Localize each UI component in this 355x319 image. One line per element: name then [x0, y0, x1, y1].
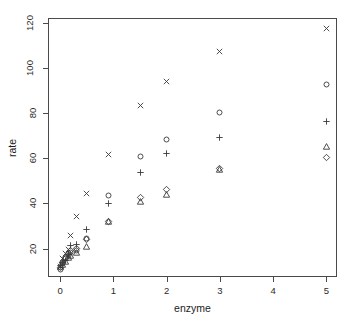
y-tick-label: 40 — [28, 198, 38, 209]
data-point-cross — [73, 213, 80, 220]
data-point-circle — [323, 81, 330, 88]
data-point-plus — [216, 134, 223, 141]
data-point-plus — [323, 118, 330, 125]
x-tick-mark — [60, 277, 61, 282]
x-tick-mark — [113, 277, 114, 282]
x-tick-mark — [273, 277, 274, 282]
y-tick-mark — [43, 203, 48, 204]
x-tick-label: 2 — [164, 286, 169, 296]
data-point-diamond — [163, 186, 170, 193]
data-point-plus — [163, 150, 170, 157]
data-point-circle — [163, 136, 170, 143]
data-point-circle — [137, 153, 144, 160]
x-tick-label: 5 — [324, 286, 329, 296]
data-point-diamond — [323, 154, 330, 161]
data-point-diamond — [216, 165, 223, 172]
y-axis-title: rate — [7, 138, 18, 156]
y-tick-mark — [43, 249, 48, 250]
data-point-triangle — [323, 143, 330, 150]
x-tick-label: 0 — [58, 286, 63, 296]
y-tick-label: 60 — [28, 153, 38, 164]
data-point-cross — [137, 102, 144, 109]
data-point-plus — [137, 169, 144, 176]
y-tick-mark — [43, 68, 48, 69]
data-point-cross — [83, 190, 90, 197]
data-point-circle — [105, 192, 112, 199]
y-tick-label: 80 — [28, 108, 38, 119]
data-point-diamond — [83, 236, 90, 243]
x-axis-title: enzyme — [174, 303, 211, 314]
data-point-plus — [83, 226, 90, 233]
y-tick-label: 20 — [28, 243, 38, 254]
x-tick-label: 1 — [111, 286, 116, 296]
data-point-plus — [105, 200, 112, 207]
data-point-diamond — [73, 245, 80, 252]
plot-panel — [48, 18, 337, 277]
data-point-cross — [323, 25, 330, 32]
data-point-circle — [216, 109, 223, 116]
data-point-triangle — [83, 243, 90, 250]
data-point-cross — [216, 48, 223, 55]
y-tick-label: 100 — [25, 60, 35, 76]
data-point-cross — [163, 78, 170, 85]
y-tick-mark — [43, 23, 48, 24]
x-tick-mark — [167, 277, 168, 282]
data-point-cross — [67, 232, 74, 239]
scatter-plot: 012345 20406080100120 enzyme rate — [0, 0, 355, 319]
data-point-diamond — [137, 194, 144, 201]
x-tick-mark — [326, 277, 327, 282]
x-tick-label: 4 — [270, 286, 275, 296]
x-tick-mark — [220, 277, 221, 282]
data-point-diamond — [105, 218, 112, 225]
y-tick-label: 120 — [25, 15, 35, 31]
x-tick-label: 3 — [217, 286, 222, 296]
data-point-cross — [105, 151, 112, 158]
y-tick-mark — [43, 113, 48, 114]
y-tick-mark — [43, 158, 48, 159]
